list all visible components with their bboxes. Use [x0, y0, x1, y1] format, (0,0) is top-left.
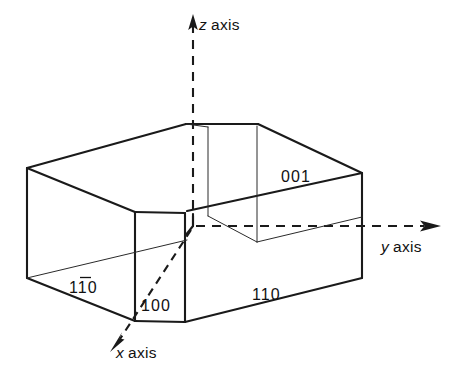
crystal-figure: zaxis yaxis xaxis 001 110 110: [0, 0, 455, 382]
x-axis-word: axis: [128, 344, 157, 361]
y-axis-symbol: y: [380, 238, 390, 255]
x-axis-label: xaxis: [115, 344, 157, 361]
x-axis-symbol: x: [115, 344, 125, 361]
y-axis-label: yaxis: [380, 238, 422, 255]
z-axis-label: zaxis: [198, 16, 240, 33]
face-region-100[interactable]: [135, 212, 185, 322]
y-axis-word: axis: [393, 238, 422, 255]
z-axis-symbol: z: [198, 16, 207, 33]
z-axis-word: axis: [211, 16, 240, 33]
crystal-diagram-svg: zaxis yaxis xaxis 001 110 110: [0, 0, 455, 382]
